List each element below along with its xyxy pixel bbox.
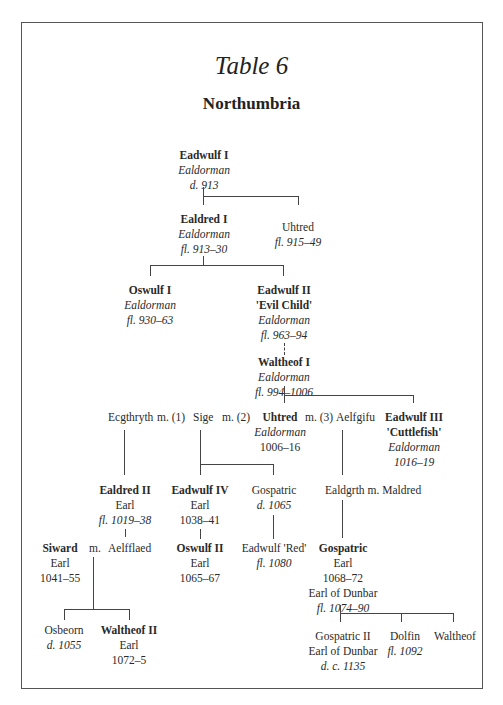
person-waltheof-ii: Waltheof II Earl 1072–5 — [101, 623, 158, 668]
marriage-label-1: m. (1) — [157, 410, 185, 425]
person-ealdred-ii: Ealdred II Earl fl. 1019–38 — [99, 483, 151, 528]
person-ealdred-i: Ealdred I Ealdorman fl. 913–30 — [178, 212, 230, 257]
person-oswulf-ii: Oswulf II Earl 1065–67 — [177, 541, 224, 586]
descent-line — [342, 500, 343, 538]
descent-line — [129, 609, 130, 620]
descent-line — [273, 464, 274, 475]
sibling-line — [200, 464, 273, 465]
descent-line — [125, 529, 126, 537]
descent-line — [342, 430, 343, 475]
person-aelfflaed: Aelfflaed — [108, 541, 151, 556]
marriage-label-siward: m. — [89, 541, 101, 556]
person-uhtred-1006: Uhtred Ealdorman 1006–16 — [254, 410, 306, 455]
descent-line — [273, 515, 274, 539]
person-ecgthryth: Ecgthryth — [108, 410, 153, 425]
person-sige: Sige — [193, 410, 213, 425]
person-eadwulf-red: Eadwulf 'Red' fl. 1080 — [242, 541, 307, 571]
person-aelfgifu: Aelfgifu — [336, 410, 375, 425]
person-eadwulf-iii: Eadwulf III 'Cuttlefish' Ealdorman 1016–… — [385, 410, 443, 470]
person-ealdgrth-maldred: Ealdgrth m. Maldred — [325, 483, 421, 498]
descent-line — [124, 430, 125, 475]
descent-line — [93, 557, 94, 609]
person-eadwulf-i: Eadwulf I Ealdorman d. 913 — [178, 148, 230, 193]
descent-line — [150, 265, 151, 276]
descent-line — [453, 613, 454, 622]
person-uhtred-915: Uhtred fl. 915–49 — [275, 220, 322, 250]
table-frame — [21, 22, 483, 689]
marriage-label-2: m. (2) — [222, 410, 250, 425]
person-gospatric-earl: Gospatric Earl 1068–72 Earl of Dunbar fl… — [309, 541, 378, 616]
descent-line — [64, 609, 65, 620]
person-gospatric-1065: Gospatric d. 1065 — [252, 483, 297, 513]
person-eadwulf-iv: Eadwulf IV Earl 1038–41 — [171, 483, 228, 528]
descent-line — [298, 196, 299, 205]
descent-line — [401, 613, 402, 622]
person-siward: Siward Earl 1041–55 — [40, 541, 80, 586]
descent-line — [283, 265, 284, 276]
person-osbeorn: Osbeorn d. 1055 — [45, 623, 84, 653]
sibling-line — [284, 395, 414, 396]
person-oswulf-i: Oswulf I Ealdorman fl. 930–63 — [124, 283, 176, 328]
person-eadwulf-ii: Eadwulf II 'Evil Child' Ealdorman fl. 96… — [256, 283, 313, 343]
marriage-label-3: m. (3) — [305, 410, 333, 425]
table-title: Table 6 — [0, 52, 503, 80]
descent-line — [203, 256, 204, 265]
sibling-line — [340, 613, 453, 614]
table-subtitle: Northumbria — [0, 94, 503, 114]
person-waltheof: Waltheof — [434, 629, 476, 644]
dashed-descent-line — [284, 343, 285, 355]
person-dolfin: Dolfin fl. 1092 — [387, 629, 422, 659]
descent-line — [413, 395, 414, 403]
sibling-line — [203, 196, 299, 197]
descent-line — [200, 430, 201, 475]
person-gospatric-ii: Gospatric II Earl of Dunbar d. c. 1135 — [309, 629, 378, 674]
descent-line — [200, 529, 201, 539]
sibling-line — [150, 265, 283, 266]
sibling-line — [64, 609, 129, 610]
